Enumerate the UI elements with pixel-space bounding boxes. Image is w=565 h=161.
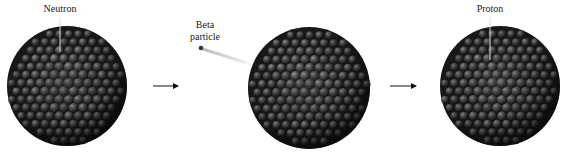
neutron-label: Neutron	[38, 3, 82, 15]
proton-label: Proton	[470, 3, 510, 15]
beta-particle-label: Beta particle	[185, 19, 225, 43]
beta-decay-diagram: Neutron Beta particle Proton	[0, 0, 565, 161]
final-nucleus	[440, 26, 560, 146]
beta-particle-trail	[203, 49, 247, 63]
beta-label-line2: particle	[185, 31, 225, 43]
decaying-nucleus	[248, 27, 371, 149]
diagram-graphics	[0, 0, 565, 161]
beta-label-line1: Beta	[185, 19, 225, 31]
initial-nucleus	[7, 26, 127, 146]
beta-particle-icon	[199, 46, 204, 51]
